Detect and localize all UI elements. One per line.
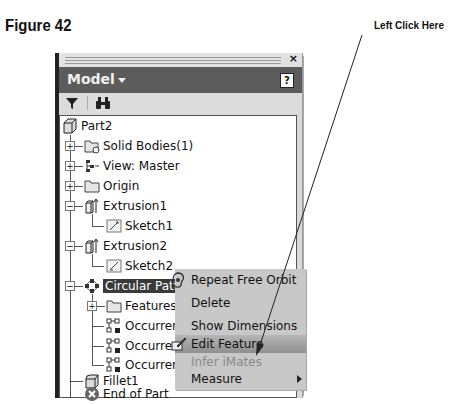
tree-node-sketch1[interactable]: Sketch1 [106, 216, 173, 236]
tree-line [75, 246, 83, 247]
funnel-icon[interactable] [65, 96, 79, 110]
folder-icon [106, 298, 122, 314]
sketch-icon [106, 258, 122, 274]
model-dropdown[interactable]: Model [67, 71, 126, 87]
occurrence-icon [106, 338, 122, 354]
tree-line [75, 186, 83, 187]
tree-node-features[interactable]: Features [106, 296, 177, 316]
tree-line [92, 254, 93, 266]
tree-line [92, 365, 104, 366]
sketch-icon [106, 218, 122, 234]
tree-line [70, 381, 83, 382]
grip-line [65, 57, 281, 58]
binoculars-icon[interactable] [95, 96, 111, 110]
panel-titlebar[interactable]: × [59, 53, 302, 67]
tree-node-origin[interactable]: Origin [84, 176, 139, 196]
menu-item-measure[interactable]: Measure [175, 370, 306, 388]
expand-toggle[interactable]: + [65, 141, 75, 151]
tree-node-solid-bodies[interactable]: Solid Bodies(1) [84, 136, 193, 156]
end-of-part-icon [84, 386, 100, 402]
tree-line [70, 135, 71, 382]
orbit-icon [169, 271, 187, 289]
menu-item-repeat-free-orbit[interactable]: Repeat Free Orbit [175, 271, 306, 289]
menu-item-show-dimensions[interactable]: Show Dimensions [175, 317, 306, 335]
tree-node-extrusion1[interactable]: Extrusion1 [84, 196, 167, 216]
annotation-label: Left Click Here [374, 20, 444, 31]
header-title: Model [67, 71, 115, 87]
close-icon[interactable]: × [289, 52, 298, 66]
tree-line [92, 214, 93, 226]
collapse-toggle[interactable]: − [65, 201, 75, 211]
browser-toolbar [59, 93, 302, 113]
context-menu: Repeat Free Orbit Delete Show Dimensions… [175, 269, 306, 390]
tree-node-view-master[interactable]: View: Master [84, 156, 180, 176]
tree-node-sketch2[interactable]: Sketch2 [106, 256, 173, 276]
folder-icon [84, 178, 100, 194]
tree-node-extrusion2[interactable]: Extrusion2 [84, 236, 167, 256]
edit-feature-icon [171, 336, 187, 352]
tree-line [92, 326, 104, 327]
collapse-toggle[interactable]: − [65, 281, 75, 291]
caret-down-icon [118, 78, 126, 83]
panel-header: Model ? [59, 67, 302, 93]
menu-item-delete[interactable]: Delete [175, 294, 306, 312]
collapse-toggle[interactable]: − [65, 241, 75, 251]
expand-toggle[interactable]: + [87, 301, 97, 311]
tree-node-part2[interactable]: Part2 [62, 116, 112, 136]
toolbar-separator [87, 96, 88, 110]
expand-toggle[interactable]: + [65, 181, 75, 191]
occurrence-icon [106, 318, 122, 334]
grip-line [65, 63, 281, 64]
solid-bodies-icon [84, 138, 100, 154]
tree-line [92, 346, 104, 347]
tree-line [75, 206, 83, 207]
expand-toggle[interactable]: + [65, 161, 75, 171]
tree-line [92, 266, 104, 267]
tree-line [70, 397, 83, 398]
tree-line [97, 306, 105, 307]
part-icon [62, 118, 78, 134]
submenu-arrow-icon [297, 375, 302, 383]
extrusion-icon [84, 238, 100, 254]
tree-line [92, 226, 104, 227]
menu-item-infer-imates: Infer iMates [175, 353, 306, 371]
extrusion-icon [84, 198, 100, 214]
tree-line [75, 146, 83, 147]
tree-node-end-of-part[interactable]: End of Part [84, 387, 169, 401]
menu-item-edit-feature[interactable]: Edit Feature [175, 335, 306, 353]
tree-line [75, 286, 83, 287]
tree-line [70, 381, 71, 398]
help-icon[interactable]: ? [280, 73, 294, 88]
circular-pattern-icon [84, 278, 100, 294]
figure-title: Figure 42 [5, 16, 72, 36]
grip-line [65, 60, 281, 61]
view-rep-icon [84, 158, 100, 174]
tree-line [75, 166, 83, 167]
